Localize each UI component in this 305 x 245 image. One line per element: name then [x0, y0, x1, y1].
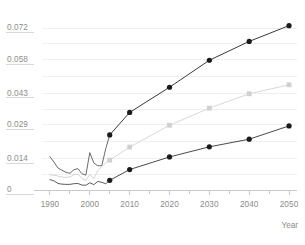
x-tick-label: 2020 [160, 200, 179, 209]
data-point-marker [127, 167, 132, 172]
y-tick-label: 0.043 [7, 89, 28, 98]
data-series [50, 26, 289, 186]
series-line-middle-projection [110, 85, 289, 160]
x-tick-label: 1990 [41, 200, 60, 209]
x-tick-label: 2030 [200, 200, 219, 209]
data-point-marker [287, 82, 292, 87]
data-point-marker [207, 58, 212, 63]
data-point-marker [107, 178, 112, 183]
y-axis-tick-labels: 00.0140.0290.0430.0580.072 [7, 23, 28, 194]
chart-container: 00.0140.0290.0430.0580.072 1990200020102… [0, 0, 305, 245]
x-tick-label: 2000 [81, 200, 100, 209]
series-line-history-upper [50, 135, 110, 175]
data-point-marker [167, 154, 172, 159]
series-line-history-middle [50, 160, 110, 180]
data-point-marker [127, 145, 132, 150]
data-point-marker [167, 85, 172, 90]
data-point-marker [247, 39, 252, 44]
data-point-marker [247, 137, 252, 142]
y-tick-label: 0.029 [7, 120, 28, 129]
data-point-marker [107, 158, 112, 163]
data-point-marker [286, 23, 291, 28]
data-point-marker [207, 106, 212, 111]
x-tick-label: 2010 [120, 200, 139, 209]
x-axis-title: Year [281, 221, 298, 230]
axis-lines [34, 190, 297, 195]
gridlines [42, 28, 297, 174]
x-tick-label: 2050 [280, 200, 299, 209]
y-tick-label: 0.072 [7, 23, 28, 32]
y-tick-label: 0.014 [7, 154, 28, 163]
series-line-upper-projection [110, 26, 289, 135]
x-tick-label: 2040 [240, 200, 259, 209]
data-point-marker [127, 110, 132, 115]
data-point-marker [247, 91, 252, 96]
series-line-lower-projection [110, 126, 289, 180]
data-point-marker [207, 144, 212, 149]
line-chart: 00.0140.0290.0430.0580.072 1990200020102… [0, 0, 305, 245]
data-point-marker [286, 123, 291, 128]
y-tick-label: 0 [7, 185, 12, 194]
y-tick-label: 0.058 [7, 55, 28, 64]
x-axis-tick-labels: 1990200020102020203020402050 [41, 200, 299, 209]
data-point-marker [107, 132, 112, 137]
series-line-history-lower [50, 180, 110, 186]
data-point-marker [167, 123, 172, 128]
